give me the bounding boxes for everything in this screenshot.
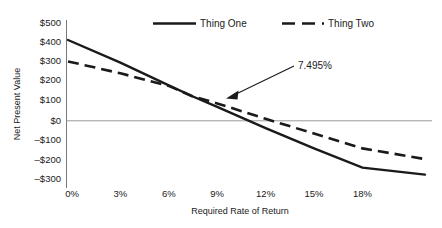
- x-tick-label: 12%: [256, 188, 276, 199]
- x-tick-label: 0%: [65, 188, 79, 199]
- y-tick-label: $400: [40, 36, 61, 47]
- annotation-arrow-line: [234, 66, 294, 95]
- y-tick-label: $500: [40, 17, 61, 28]
- npv-crossover-chart: $500 $400 $300 $200 $100 $0 –$100 –$200 …: [0, 0, 442, 228]
- x-tick-label: 18%: [353, 188, 373, 199]
- series-line-thing-one: [68, 40, 425, 175]
- annotation-arrow-head-icon: [226, 91, 239, 100]
- x-tick-label: 15%: [304, 188, 324, 199]
- annotation-crossover-label: 7.495%: [298, 60, 332, 71]
- x-axis-title: Required Rate of Return: [191, 206, 289, 216]
- x-tick-label: 3%: [114, 188, 128, 199]
- legend-label-thing-two: Thing Two: [328, 18, 374, 29]
- y-tick-label: $100: [40, 94, 61, 105]
- x-tick-label: 9%: [210, 188, 224, 199]
- chart-canvas: $500 $400 $300 $200 $100 $0 –$100 –$200 …: [0, 0, 442, 228]
- x-tick-label: 6%: [162, 188, 176, 199]
- y-axis-title: Net Present Value: [12, 68, 22, 140]
- y-tick-label: –$100: [35, 134, 61, 145]
- y-tick-label: –$200: [35, 154, 61, 165]
- legend-label-thing-one: Thing One: [200, 18, 247, 29]
- y-tick-label: –$300: [35, 173, 61, 184]
- series-line-thing-two: [68, 61, 425, 159]
- y-tick-label: $200: [40, 74, 61, 85]
- y-tick-label: $300: [40, 55, 61, 66]
- y-tick-label: $0: [50, 115, 61, 126]
